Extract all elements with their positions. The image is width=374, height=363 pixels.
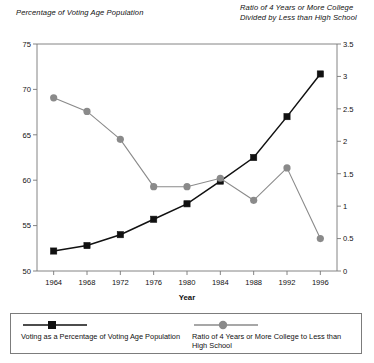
right-tick-label: 2: [343, 137, 347, 146]
chart-figure: Percentage of Voting Age Population Rati…: [0, 0, 374, 363]
series-college-ratio: [50, 94, 324, 242]
right-tick-label: 3.5: [343, 40, 354, 49]
x-tick-label: 1988: [245, 278, 262, 287]
legend-label-voting-percentage: Voting as a Percentage of Voting Age Pop…: [21, 332, 181, 341]
right-tick-label: 1.5: [343, 170, 354, 179]
left-tick-label: 50: [23, 267, 31, 276]
x-axis-label: Year: [179, 293, 195, 302]
left-axis-ticks: 505560657075: [23, 40, 37, 276]
x-tick-label: 1996: [312, 278, 329, 287]
axis-lines: [37, 44, 337, 271]
legend-item-college-ratio: Ratio of 4 Years or More College to Less…: [192, 320, 352, 351]
left-tick-label: 55: [23, 221, 31, 230]
legend-item-voting-percentage: Voting as a Percentage of Voting Age Pop…: [21, 320, 181, 341]
x-tick-label: 1992: [279, 278, 296, 287]
legend-label-college-ratio: Ratio of 4 Years or More College to Less…: [192, 332, 352, 351]
x-tick-label: 1968: [79, 278, 96, 287]
legend-swatch-circle-icon: [192, 320, 260, 330]
left-tick-label: 75: [23, 40, 31, 49]
x-tick-label: 1984: [212, 278, 229, 287]
left-tick-label: 60: [23, 176, 31, 185]
right-tick-label: 3: [343, 72, 347, 81]
plot-area: 505560657075 00.511.522.533.5 1964196819…: [0, 0, 374, 310]
right-tick-label: 1: [343, 202, 347, 211]
right-tick-label: 0: [343, 267, 347, 276]
x-axis-ticks: 196419681972197619801984198819921996: [45, 271, 329, 287]
x-tick-label: 1976: [145, 278, 162, 287]
legend: Voting as a Percentage of Voting Age Pop…: [10, 313, 362, 354]
x-tick-label: 1972: [112, 278, 129, 287]
x-tick-label: 1964: [45, 278, 62, 287]
right-axis-ticks: 00.511.522.533.5: [337, 40, 354, 276]
series-layer: [50, 71, 324, 254]
right-tick-label: 2.5: [343, 105, 354, 114]
x-tick-label: 1980: [179, 278, 196, 287]
legend-swatch-square-icon: [21, 320, 89, 330]
left-tick-label: 70: [23, 85, 31, 94]
left-tick-label: 65: [23, 131, 31, 140]
series-voting-percentage: [51, 71, 324, 254]
right-tick-label: 0.5: [343, 234, 354, 243]
